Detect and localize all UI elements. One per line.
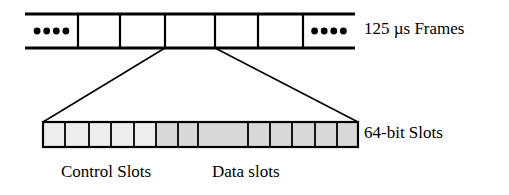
ellipsis-dot [53,28,60,35]
frame-slot-diagram: 125 µs Frames 64-bit Slots Control Slots… [0,0,509,195]
slot-cell [248,122,270,147]
ellipsis-dot [321,28,328,35]
frame-ellipsis-dots [311,28,347,35]
ellipsis-dot [43,28,50,35]
ellipsis-dot [34,28,41,35]
caption-data-slots: Data slots [212,163,280,180]
ellipsis-dot [63,28,70,35]
frame-ellipsis-dots [34,28,70,35]
frame-row [25,14,355,48]
expansion-line-left [43,48,165,122]
slot-cell [43,122,65,147]
ellipsis-dot [340,28,347,35]
expansion-lines [43,48,358,122]
slot-row [43,122,358,147]
slot-cell [178,122,198,147]
expansion-line-right [215,48,358,122]
slot-row-label: 64-bit Slots [364,124,443,141]
slot-cell [337,122,358,147]
slot-cell [134,122,156,147]
slot-cell [65,122,89,147]
ellipsis-dot [311,28,318,35]
caption-control-slots: Control Slots [61,163,151,180]
frame-row-label: 125 µs Frames [364,20,464,37]
ellipsis-dot [330,28,337,35]
slot-cell [292,122,315,147]
slot-cell [111,122,134,147]
slot-cell [315,122,337,147]
slot-cell [270,122,292,147]
slot-cell [198,122,248,147]
slot-cell [156,122,178,147]
slot-cell [89,122,111,147]
